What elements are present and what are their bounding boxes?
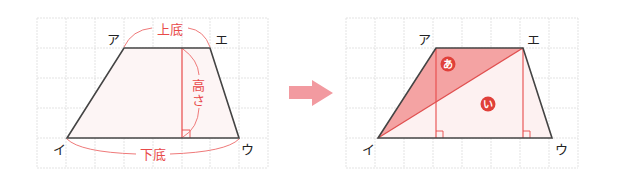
right-vertex-i-label: イ: [362, 142, 375, 157]
transform-arrow-icon: [289, 80, 333, 106]
badge-a-label: あ: [443, 58, 453, 70]
right-panel: あ い ア エ イ ウ: [346, 18, 578, 168]
left-trapezoid-fill: [67, 48, 239, 138]
badge-a: あ: [441, 57, 456, 72]
vertex-e-label: エ: [215, 32, 228, 47]
right-vertex-a-label: ア: [418, 32, 431, 47]
vertex-u-label: ウ: [241, 142, 254, 157]
right-vertex-e-label: エ: [527, 32, 540, 47]
lower-base-label: 下底: [140, 147, 166, 162]
badge-i: い: [481, 97, 496, 112]
vertex-i-label: イ: [53, 142, 66, 157]
diagram-canvas: 上底 下底 高 さ ア エ イ ウ: [0, 0, 620, 179]
height-label-char1: 高: [192, 78, 205, 93]
vertex-a-label: ア: [107, 32, 120, 47]
badge-i-label: い: [483, 99, 493, 110]
height-label-char2: さ: [192, 93, 205, 108]
left-panel: 上底 下底 高 さ ア エ イ ウ: [37, 18, 268, 168]
upper-base-label: 上底: [157, 22, 183, 37]
right-vertex-u-label: ウ: [555, 142, 568, 157]
